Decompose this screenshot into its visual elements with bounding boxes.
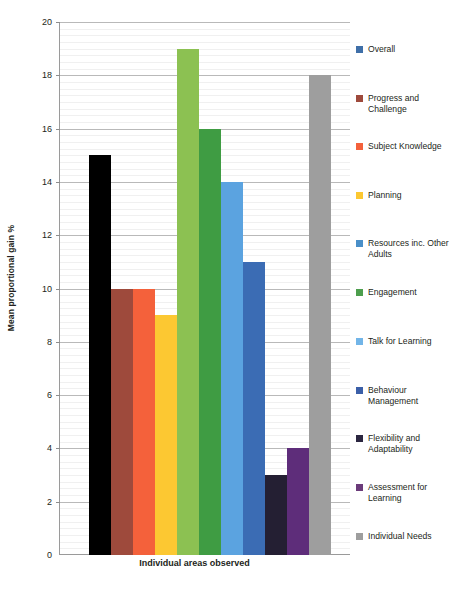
bar-chart: Mean proportional gain % 024681012141618… <box>0 0 449 605</box>
legend-item-label: Talk for Learning <box>368 336 432 347</box>
bar-5 <box>177 49 199 555</box>
bar-series <box>60 22 330 555</box>
y-axis-title: Mean proportional gain % <box>0 0 22 555</box>
legend-swatch-icon <box>356 289 363 296</box>
x-axis-title: Individual areas observed <box>59 558 330 568</box>
legend-item-talk-for-learning[interactable]: Talk for Learning <box>356 336 432 347</box>
legend-item-overall[interactable]: Overall <box>356 44 395 55</box>
bar-11 <box>309 75 331 555</box>
legend-item-assessment-for-learning[interactable]: Assessment for Learning <box>356 482 449 504</box>
legend-swatch-icon <box>356 338 363 345</box>
y-axis-tick-6: 6 <box>47 390 52 400</box>
bar-1 <box>89 155 111 555</box>
legend-swatch-icon <box>356 240 363 247</box>
y-axis-tick-8: 8 <box>47 337 52 347</box>
bar-3 <box>133 289 155 556</box>
y-axis-tick-12: 12 <box>42 230 52 240</box>
y-axis-tick-16: 16 <box>42 124 52 134</box>
figure-caption <box>28 597 358 605</box>
legend-item-label: Behaviour Management <box>368 385 449 407</box>
y-axis-tick-2: 2 <box>47 497 52 507</box>
y-axis-tick-0: 0 <box>47 550 52 560</box>
legend-item-engagement[interactable]: Engagement <box>356 287 417 298</box>
legend-item-resources-inc-other-adults[interactable]: Resources inc. Other Adults <box>356 238 449 260</box>
legend-item-progress-and-challenge[interactable]: Progress and Challenge <box>356 93 449 115</box>
legend-item-label: Flexibility and Adaptability <box>368 433 449 455</box>
legend-item-label: Engagement <box>368 287 417 298</box>
bar-8 <box>243 262 265 555</box>
bar-4 <box>155 315 177 555</box>
bar-10 <box>287 448 309 555</box>
y-axis-tick-14: 14 <box>42 177 52 187</box>
legend-item-planning[interactable]: Planning <box>356 190 401 201</box>
legend-swatch-icon <box>356 484 363 491</box>
y-axis-tick-10: 10 <box>42 284 52 294</box>
bar-6 <box>199 129 221 555</box>
legend-item-label: Subject Knowledge <box>368 141 442 152</box>
y-axis-tick-20: 20 <box>42 17 52 27</box>
legend-item-flexibility-and-adaptability[interactable]: Flexibility and Adaptability <box>356 433 449 455</box>
legend-item-behaviour-management[interactable]: Behaviour Management <box>356 385 449 407</box>
legend-item-subject-knowledge[interactable]: Subject Knowledge <box>356 141 442 152</box>
legend-item-individual-needs[interactable]: Individual Needs <box>356 531 432 542</box>
bar-7 <box>221 182 243 555</box>
y-axis-tick-labels: 02468101214161820 <box>22 0 58 605</box>
bar-2 <box>111 289 133 556</box>
y-axis-tick-18: 18 <box>42 70 52 80</box>
plot-area <box>59 22 330 555</box>
legend-swatch-icon <box>356 387 363 394</box>
legend-swatch-icon <box>356 46 363 53</box>
chart-legend: OverallProgress and ChallengeSubject Kno… <box>356 0 449 605</box>
y-axis-title-label: Mean proportional gain % <box>6 224 16 330</box>
legend-item-label: Planning <box>368 190 401 201</box>
legend-swatch-icon <box>356 143 363 150</box>
legend-item-label: Resources inc. Other Adults <box>368 238 449 260</box>
bar-9 <box>265 475 287 555</box>
y-axis-tick-4: 4 <box>47 443 52 453</box>
legend-swatch-icon <box>356 95 363 102</box>
legend-item-label: Progress and Challenge <box>368 93 449 115</box>
legend-item-label: Overall <box>368 44 395 55</box>
legend-swatch-icon <box>356 192 363 199</box>
legend-item-label: Individual Needs <box>368 531 432 542</box>
legend-item-label: Assessment for Learning <box>368 482 449 504</box>
legend-swatch-icon <box>356 533 363 540</box>
legend-swatch-icon <box>356 435 363 442</box>
